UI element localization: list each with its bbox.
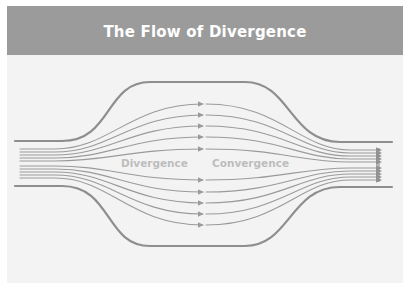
divergent-streamline-arrow <box>20 115 203 152</box>
channel-boundaries <box>15 82 392 246</box>
convergent-streamline-arrow <box>206 115 381 153</box>
convergent-streamline-arrow <box>206 177 381 214</box>
divergent-streamline-arrow <box>20 175 203 214</box>
flow-diagram <box>0 0 411 291</box>
divergent-streamline-arrow <box>20 104 203 149</box>
bottom-boundary-line <box>15 186 392 246</box>
top-boundary-line <box>15 82 392 142</box>
streamlines <box>20 104 381 225</box>
convergence-label: Convergence <box>212 157 289 169</box>
converged-arrowheads <box>376 148 380 182</box>
divergent-streamline-arrow <box>20 172 203 203</box>
divergence-label: Divergence <box>121 157 188 169</box>
